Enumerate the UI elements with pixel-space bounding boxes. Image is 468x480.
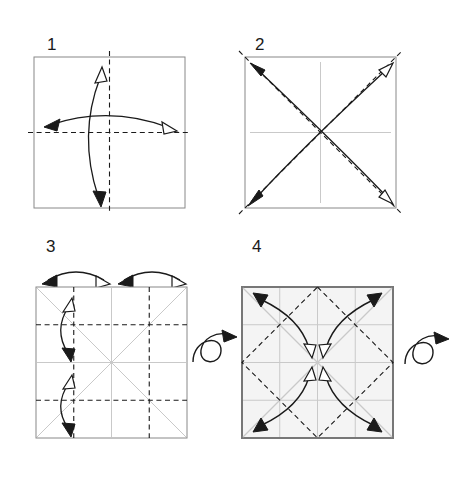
arrowhead-hollow-top-right-3 — [172, 276, 186, 288]
arrowhead-filled-top-left-3 — [42, 275, 57, 287]
origami-diagram-canvas: 1 2 3 — [0, 0, 468, 480]
step-panel-3: 3 — [36, 237, 237, 438]
origami-diagram: 1 2 3 — [0, 0, 468, 480]
arrowhead-filled-turn-over-3 — [222, 330, 237, 342]
turn-over-loop-arrow-4 — [405, 332, 449, 364]
step-number-2: 2 — [255, 35, 264, 54]
arrowhead-filled-turn-over-4 — [434, 332, 449, 344]
turn-over-loop-arrow-3 — [193, 330, 237, 362]
step-number-1: 1 — [47, 35, 56, 54]
arrowhead-filled-top-right-3 — [118, 275, 133, 287]
step-panel-4: 4 — [242, 237, 449, 438]
step-panel-2: 2 — [239, 35, 402, 214]
step-number-4: 4 — [252, 237, 261, 256]
step-panel-1: 1 — [28, 35, 191, 214]
step-number-3: 3 — [46, 237, 55, 256]
arrowhead-hollow-top-left-3 — [96, 276, 110, 288]
